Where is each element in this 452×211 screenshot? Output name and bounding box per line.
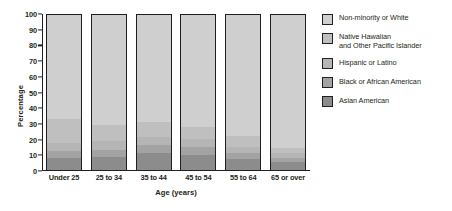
bar-segment [271, 162, 305, 170]
legend-swatch-icon [322, 14, 333, 25]
bar-segment [181, 127, 215, 139]
bar-segment [47, 119, 81, 143]
bar-segment [271, 15, 305, 148]
legend-item[interactable]: Native Hawaiianand Other Pacific Islande… [322, 32, 450, 50]
legend-label: Native Hawaiianand Other Pacific Islande… [339, 32, 422, 50]
bar-35-to-44[interactable] [136, 14, 172, 171]
bar-segment [181, 15, 215, 127]
legend-item[interactable]: Non-minority or White [322, 13, 450, 25]
legend-item[interactable]: Hispanic or Latino [322, 58, 450, 70]
legend-swatch-icon [322, 58, 333, 69]
legend-label: Non-minority or White [339, 13, 409, 22]
x-tick-label: Under 25 [46, 173, 82, 186]
bar-segment [137, 137, 171, 145]
y-tick-label: 60 [29, 72, 37, 81]
bar-segment [181, 147, 215, 155]
y-axis-ticks: 0102030405060708090100 [0, 14, 42, 171]
bar-segment [47, 158, 81, 170]
bar-segment [137, 153, 171, 170]
y-tick-label: 70 [29, 57, 37, 66]
y-tick-label: 0 [33, 167, 37, 176]
bar-segment [137, 122, 171, 138]
y-tick-label: 90 [29, 25, 37, 34]
x-tick-label: 25 to 34 [91, 173, 127, 186]
y-tick-label: 50 [29, 88, 37, 97]
y-tick-label: 80 [29, 41, 37, 50]
x-tick-label: 35 to 44 [136, 173, 172, 186]
bar-segment [137, 145, 171, 153]
legend-swatch-icon [322, 77, 333, 88]
bar-segment [181, 139, 215, 147]
bar-segment [47, 151, 81, 158]
bar-segment [92, 125, 126, 141]
bar-under-25[interactable] [46, 14, 82, 171]
bar-segment [226, 136, 260, 147]
bar-25-to-34[interactable] [91, 14, 127, 171]
x-tick-label: 55 to 64 [225, 173, 261, 186]
bar-segment [181, 155, 215, 171]
chart-container: Percentage 0102030405060708090100 Under … [0, 0, 452, 211]
x-axis-title: Age (years) [42, 188, 310, 197]
bar-segment [47, 143, 81, 152]
y-tick-label: 40 [29, 104, 37, 113]
y-tick-label: 100 [25, 10, 37, 19]
bar-55-to-64[interactable] [225, 14, 261, 171]
y-tick-label: 20 [29, 135, 37, 144]
bar-segment [226, 15, 260, 136]
bar-segment [137, 15, 171, 122]
x-tick-label: 65 or over [270, 173, 306, 186]
legend-swatch-icon [322, 96, 333, 107]
legend-label: Asian American [339, 96, 389, 105]
bar-segment [92, 141, 126, 150]
bar-segment [92, 157, 126, 170]
legend-item[interactable]: Black or African American [322, 77, 450, 89]
chart-legend: Non-minority or WhiteNative Hawaiianand … [322, 13, 450, 115]
bar-45-to-54[interactable] [180, 14, 216, 171]
bar-segment [226, 159, 260, 170]
x-axis-tick-labels: Under 2525 to 3435 to 4445 to 5455 to 64… [42, 173, 310, 186]
legend-label: Black or African American [339, 77, 421, 86]
bar-segment [47, 15, 81, 119]
bar-65-or-over[interactable] [270, 14, 306, 171]
legend-swatch-icon [322, 33, 333, 44]
x-tick-label: 45 to 54 [180, 173, 216, 186]
legend-label: Hispanic or Latino [339, 58, 397, 67]
bar-segment [92, 15, 126, 125]
plot-area [42, 14, 310, 171]
legend-item[interactable]: Asian American [322, 96, 450, 108]
y-tick-label: 30 [29, 119, 37, 128]
bar-segment [92, 150, 126, 157]
bar-group [42, 14, 310, 171]
y-tick-label: 10 [29, 151, 37, 160]
